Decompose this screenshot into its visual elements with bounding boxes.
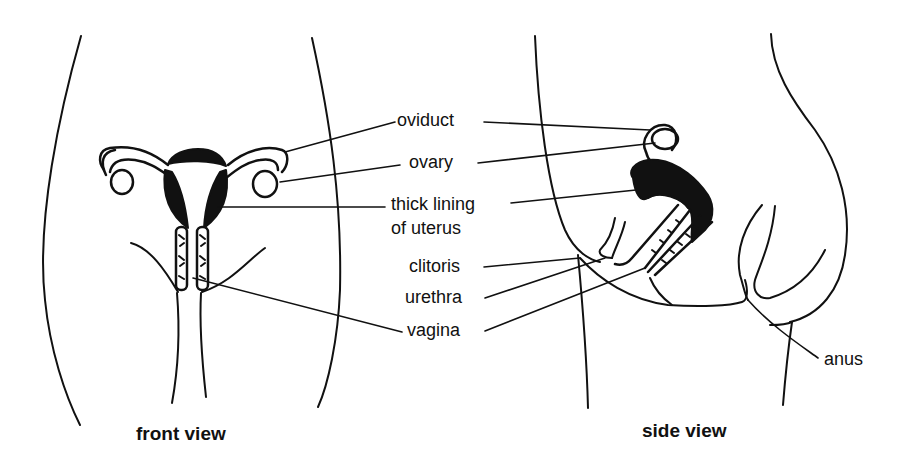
caption-side-view: side view (642, 420, 727, 442)
label-oviduct: oviduct (397, 110, 454, 131)
label-thick-lining-line1: thick lining (391, 194, 475, 215)
anatomy-diagram: oviduct ovary thick lining of uterus cli… (0, 0, 918, 465)
label-ovary: ovary (409, 152, 453, 173)
label-clitoris: clitoris (409, 256, 460, 277)
front-leader-lines (193, 122, 402, 332)
front-view-figure (43, 36, 340, 425)
label-vagina: vagina (407, 320, 460, 341)
side-view-figure (535, 34, 847, 408)
label-anus: anus (824, 349, 863, 370)
label-urethra: urethra (405, 287, 462, 308)
side-leader-lines (478, 122, 655, 331)
caption-front-view: front view (136, 423, 226, 445)
label-thick-lining-line2: of uterus (391, 218, 461, 239)
